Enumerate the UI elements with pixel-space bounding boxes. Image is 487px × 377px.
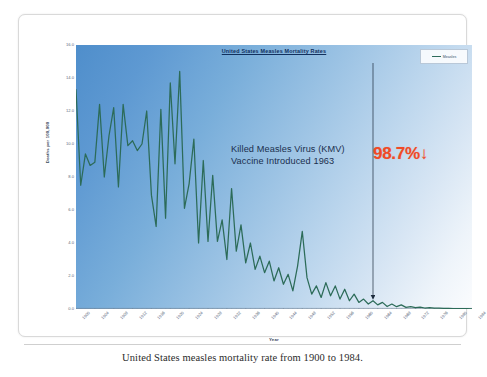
x-tick-label: 1940 [270,311,279,320]
x-tick-label: 1920 [176,311,185,320]
down-arrow-icon: ↓ [420,144,428,163]
y-tick-label: 2.0 [52,274,74,278]
percent-reduction-callout: 98.7%↓ [373,144,428,164]
percent-value: 98.7% [373,144,420,163]
x-tick-label: 1932 [233,311,242,320]
y-tick-label: 8.0 [52,175,74,179]
y-tick-label: 6.0 [52,208,74,212]
vaccine-annotation: Killed Measles Virus (KMV) Vaccine Intro… [231,143,345,168]
x-axis-title: Year [76,337,472,342]
figure-caption: United States measles mortality rate fro… [0,352,485,363]
series-line-measles [76,71,472,308]
x-tick-label: 1964 [383,311,392,320]
caption-divider [24,344,461,345]
y-tick-label: 16.0 [52,43,74,47]
x-axis-ticks: 1900190419081912191619201924192819321936… [76,311,472,337]
x-tick-label: 1912 [138,311,147,320]
y-tick-label: 14.0 [52,76,74,80]
x-tick-label: 1948 [308,311,317,320]
x-tick-label: 1928 [214,311,223,320]
x-tick-label: 1900 [82,311,91,320]
x-tick-label: 1904 [101,311,110,320]
x-tick-label: 1916 [157,311,166,320]
x-tick-label: 1936 [251,311,260,320]
y-axis-ticks: 16.014.012.010.08.06.04.02.00.0 [48,45,74,309]
x-tick-label: 1944 [289,311,298,320]
x-tick-label: 1960 [365,311,374,320]
x-tick-label: 1908 [119,311,128,320]
plot-area: United States Measles Mortality Rates Me… [76,45,472,309]
x-tick-label: 1972 [421,311,430,320]
x-tick-label: 1984 [478,311,487,320]
x-tick-label: 1952 [327,311,336,320]
x-tick-label: 1924 [195,311,204,320]
x-tick-label: 1976 [440,311,449,320]
x-tick-label: 1968 [402,311,411,320]
measles-mortality-line-chart [76,45,472,309]
chart-card: Deaths per 100,000 16.014.012.010.08.06.… [18,14,467,337]
y-tick-label: 12.0 [52,109,74,113]
y-tick-label: 4.0 [52,241,74,245]
y-tick-label: 10.0 [52,142,74,146]
x-tick-label: 1956 [346,311,355,320]
y-tick-label: 0.0 [52,307,74,311]
x-tick-label: 1980 [459,311,468,320]
